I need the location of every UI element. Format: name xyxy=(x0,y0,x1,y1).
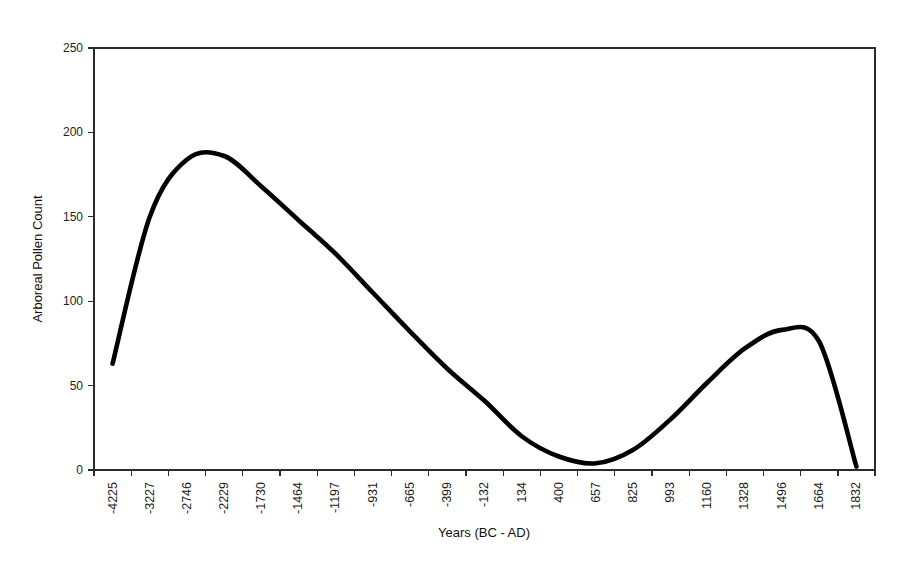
y-axis-title: Arboreal Pollen Count xyxy=(30,195,45,323)
y-tick-label-250: 250 xyxy=(63,41,83,55)
x-tick-label-6: -1197 xyxy=(328,482,342,513)
y-tick-label-150: 150 xyxy=(63,210,83,224)
x-tick-label-1: -3227 xyxy=(143,482,157,514)
pollen-count-curve xyxy=(113,152,857,466)
x-tick-label-3: -2229 xyxy=(217,482,231,514)
x-tick-label-14: 825 xyxy=(626,482,640,503)
y-tick-label-100: 100 xyxy=(63,294,83,308)
x-tick-label-18: 1496 xyxy=(775,482,789,510)
y-axis-tick-labels: 0 50 100 150 200 250 xyxy=(63,41,83,477)
pollen-line-chart: 0 50 100 150 200 250 xyxy=(0,0,914,561)
chart-figure: 0 50 100 150 200 250 xyxy=(0,0,914,561)
x-axis-ticks xyxy=(94,470,875,476)
x-tick-label-11: 134 xyxy=(515,482,529,503)
x-tick-label-20: 1832 xyxy=(849,482,863,510)
x-tick-label-17: 1328 xyxy=(737,482,751,510)
x-tick-label-13: 657 xyxy=(589,482,603,503)
y-tick-label-50: 50 xyxy=(70,379,84,393)
x-tick-label-16: 1160 xyxy=(700,482,714,509)
x-axis-tick-labels: -4225 -3227 -2746 -2229 -1730 -1464 -119… xyxy=(106,482,863,514)
data-series-group xyxy=(113,152,857,466)
x-tick-label-9: -399 xyxy=(440,482,454,507)
x-tick-label-0: -4225 xyxy=(106,482,120,514)
y-tick-label-0: 0 xyxy=(76,463,83,477)
x-tick-label-2: -2746 xyxy=(180,482,194,514)
x-tick-label-7: -931 xyxy=(366,482,380,507)
x-tick-label-10: -132 xyxy=(477,482,491,507)
x-tick-label-8: -665 xyxy=(403,482,417,507)
x-tick-label-19: 1664 xyxy=(812,482,826,510)
x-tick-label-15: 993 xyxy=(663,482,677,503)
x-tick-label-4: -1730 xyxy=(254,482,268,514)
x-tick-label-12: 400 xyxy=(552,482,566,503)
x-tick-label-5: -1464 xyxy=(291,482,305,514)
plot-frame xyxy=(94,48,875,470)
x-axis-title: Years (BC - AD) xyxy=(438,525,530,540)
y-axis-ticks xyxy=(88,48,94,470)
y-tick-label-200: 200 xyxy=(63,125,83,139)
